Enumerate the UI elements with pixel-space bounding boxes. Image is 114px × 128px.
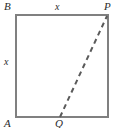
side-label-top-x: x (55, 2, 59, 12)
vertex-label-b: B (4, 1, 11, 12)
figure-canvas (0, 0, 114, 128)
square-outline (16, 15, 108, 117)
vertex-label-p: P (104, 1, 111, 12)
dashed-diagonal-qp (60, 16, 107, 117)
geometry-figure: B P A Q x x (0, 0, 114, 128)
point-label-q: Q (55, 118, 63, 128)
vertex-label-a: A (4, 118, 11, 128)
side-label-left-x: x (4, 57, 8, 67)
